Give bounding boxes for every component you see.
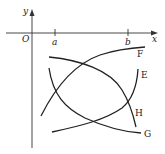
axes — [6, 9, 158, 148]
graph-diagram: y x O a b F E H G — [0, 0, 165, 154]
x-axis-label: x — [152, 34, 157, 44]
origin-label: O — [22, 34, 30, 44]
curve-label-f: F — [137, 49, 143, 59]
curve-label-g: G — [144, 129, 151, 139]
y-axis-arrow-icon — [30, 9, 35, 16]
curve-label-e: E — [141, 70, 148, 80]
tick-label-a: a — [52, 37, 57, 47]
tick-label-b: b — [125, 37, 131, 47]
y-axis-label: y — [22, 6, 29, 16]
curve-label-h: H — [135, 108, 143, 118]
curve-h — [49, 57, 136, 127]
